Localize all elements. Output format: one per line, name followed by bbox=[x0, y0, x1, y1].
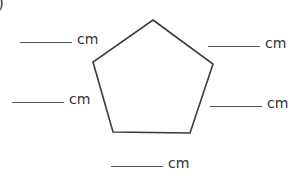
unit-label: cm bbox=[77, 31, 98, 47]
answer-blank-bottom[interactable] bbox=[111, 166, 163, 167]
answer-blank-middle-right[interactable] bbox=[210, 106, 262, 107]
answer-middle-right: cm bbox=[210, 95, 288, 111]
unit-label: cm bbox=[267, 95, 288, 111]
pentagon-outline bbox=[93, 20, 213, 133]
answer-blank-middle-left[interactable] bbox=[12, 102, 64, 103]
unit-label: cm bbox=[168, 155, 189, 171]
unit-label: cm bbox=[265, 35, 286, 51]
unit-label: cm bbox=[69, 91, 90, 107]
answer-top-right: cm bbox=[208, 35, 286, 51]
answer-blank-top-left[interactable] bbox=[20, 42, 72, 43]
answer-top-left: cm bbox=[20, 31, 98, 47]
answer-middle-left: cm bbox=[12, 91, 90, 107]
answer-blank-top-right[interactable] bbox=[208, 46, 260, 47]
pentagon-figure bbox=[0, 0, 290, 175]
answer-bottom: cm bbox=[111, 155, 189, 171]
